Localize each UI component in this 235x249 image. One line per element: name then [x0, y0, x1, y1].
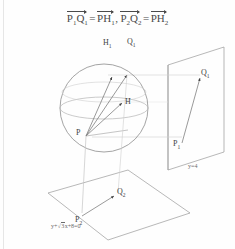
vector-p2q2-q: Q [130, 12, 138, 24]
bottom-plane-vector [82, 196, 114, 216]
vector-p-right [86, 130, 128, 136]
vector-p1q1-sub2: 1 [84, 19, 88, 27]
vector-ph1: PH1 [97, 9, 115, 27]
vector-arrow-icon [151, 11, 167, 12]
label-p1-plane: P1 [173, 140, 180, 150]
vector-arrow-icon [67, 11, 86, 12]
figure-page: P1Q1=PH1,P2Q2=PH2 [0, 0, 235, 249]
vector-ph1-h: H [103, 12, 111, 24]
label-h: H [125, 98, 131, 108]
vector-ph2-sub: 2 [165, 19, 169, 27]
sphere [60, 64, 148, 152]
label-p1-plane-sub: 1 [177, 144, 180, 150]
drop-line-q1-to-q2 [118, 75, 127, 193]
vector-arrow-icon [97, 11, 113, 12]
vector-to-h [86, 103, 122, 136]
right-plane-vector [182, 78, 200, 143]
sphere-vectors [86, 75, 128, 136]
figure-canvas [0, 30, 235, 249]
vector-p2q2-sub2: 2 [138, 19, 142, 27]
vector-p2q2: P2Q2 [120, 9, 141, 27]
label-q1: Q1 [127, 38, 136, 48]
label-h-text: H [125, 97, 131, 106]
header-equation: P1Q1=PH1,P2Q2=PH2 [0, 9, 235, 27]
label-p: P [76, 129, 80, 139]
equals-sign-2: = [142, 12, 150, 24]
label-q1-plane: Q1 [201, 69, 210, 79]
label-p-text: P [76, 128, 80, 137]
vector-p1q1: P1Q1 [67, 9, 88, 27]
label-h1: H1 [103, 39, 112, 49]
label-q2-plane: Q2 [117, 188, 126, 198]
vector-p1-to-q1 [182, 78, 200, 143]
label-q2-plane-sub: 2 [123, 192, 126, 198]
vector-to-h1 [86, 77, 112, 136]
right-vertical-plane [168, 47, 224, 170]
right-plane-equation: y=4 [188, 163, 197, 169]
right-plane-eq-rhs: 4 [194, 163, 197, 169]
equals-sign-1: = [88, 12, 96, 24]
vector-arrow-icon [120, 11, 139, 12]
bottom-plane-equation: y+√3x+8=0 [51, 223, 80, 229]
label-q1-sub: 1 [133, 42, 136, 48]
label-h1-sub: 1 [109, 43, 112, 49]
projection-guides [92, 75, 200, 137]
geometry-figure: H1 Q1 H P Q1 P1 y=4 Q2 P2 y+√3x+8=0 [0, 30, 235, 249]
equation-comma: , [115, 12, 120, 24]
label-q1-plane-sub: 1 [207, 73, 210, 79]
vector-ph2-h: H [157, 12, 165, 24]
vector-ph1-sub: 1 [111, 19, 115, 27]
vector-p2-to-q2 [82, 196, 114, 216]
vector-to-q1 [86, 75, 127, 136]
bp-eq-rhs: 0 [77, 223, 80, 229]
vector-ph2: PH2 [151, 9, 169, 27]
